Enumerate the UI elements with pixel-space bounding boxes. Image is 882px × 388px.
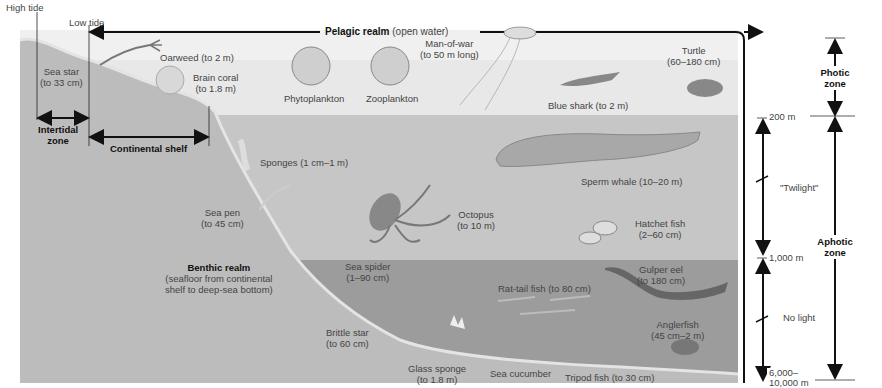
sea-pen-label: Sea pen(to 45 cm) — [201, 207, 244, 229]
depth-200m: 200 m — [767, 111, 797, 122]
benthic-realm-name: Benthic realm — [165, 262, 273, 273]
intertidal-zone-label: Intertidal zone — [38, 123, 78, 147]
photic-line1: Photic — [818, 67, 852, 78]
zooplankton-label: Zooplankton — [366, 93, 418, 104]
brittle-star-label: Brittle star(to 60 cm) — [326, 327, 369, 349]
turtle-icon — [687, 79, 723, 97]
photic-zone-label: Photic zone — [818, 66, 852, 90]
continental-shelf-label: Continental shelf — [110, 142, 187, 155]
aphotic-zone-label: Aphotic zone — [812, 235, 858, 259]
photic-line2: zone — [818, 78, 852, 89]
intertidal-line1: Intertidal — [38, 124, 78, 135]
intertidal-line2: zone — [38, 135, 78, 146]
zooplankton-icon — [371, 47, 409, 85]
gulper-eel-label: Gulper eel(to 180 cm) — [637, 264, 685, 286]
man-of-war-label: Man-of-war(to 50 m long) — [420, 38, 479, 60]
phytoplankton-label: Phytoplankton — [284, 93, 344, 104]
rat-tail-fish-label: Rat-tail fish (to 80 cm) — [498, 283, 591, 294]
phytoplankton-icon — [292, 47, 330, 85]
sea-cucumber-label: Sea cucumber — [490, 368, 551, 379]
pelagic-realm-label: Pelagic realm (open water) — [325, 26, 448, 37]
sponges-label: Sponges (1 cm–1 m) — [260, 157, 348, 168]
depth-max-line2: 10,000 m — [769, 378, 809, 388]
glass-sponge-label: Glass sponge(to 1.8 m) — [408, 363, 466, 385]
sperm-whale-label: Sperm whale (10–20 m) — [581, 176, 682, 187]
octopus-label: Octopus(to 10 m) — [457, 209, 495, 231]
blue-shark-label: Blue shark (to 2 m) — [548, 100, 628, 111]
sea-spider-label: Sea spider(1–90 cm) — [345, 261, 390, 283]
brain-coral-icon — [156, 66, 184, 94]
turtle-label: Turtle(60–180 cm) — [667, 45, 720, 67]
tripod-fish-label: Tripod fish (to 30 cm) — [565, 372, 654, 383]
aphotic-line1: Aphotic — [812, 236, 858, 247]
benthic-note-line2: shelf to deep-sea bottom) — [165, 284, 273, 295]
man-of-war-icon — [504, 27, 536, 39]
aphotic-line2: zone — [812, 247, 858, 258]
benthic-note-line1: (seafloor from continental — [165, 273, 273, 284]
pelagic-realm-note: (open water) — [392, 26, 448, 37]
anglerfish-icon — [671, 339, 699, 355]
high-tide-label: High tide — [6, 2, 44, 13]
depth-1000m: 1,000 m — [767, 252, 805, 263]
low-tide-label: Low tide — [69, 17, 104, 28]
oarweed-label: Oarweed (to 2 m) — [160, 52, 234, 63]
sea-star-label: Sea star(to 33 cm) — [40, 66, 83, 88]
brain-coral-label: Brain coral(to 1.8 m) — [193, 72, 238, 94]
pelagic-realm-name: Pelagic realm — [325, 26, 389, 37]
no-light-label: No light — [783, 312, 815, 323]
twilight-label: "Twilight" — [780, 182, 818, 193]
anglerfish-label: Anglerfish(45 cm–2 m) — [651, 319, 704, 341]
benthic-realm-label: Benthic realm (seafloor from continental… — [165, 262, 273, 295]
depth-max: 6,000– 10,000 m — [767, 368, 811, 388]
hatchet-fish-label: Hatchet fish(2–60 cm) — [635, 218, 685, 240]
